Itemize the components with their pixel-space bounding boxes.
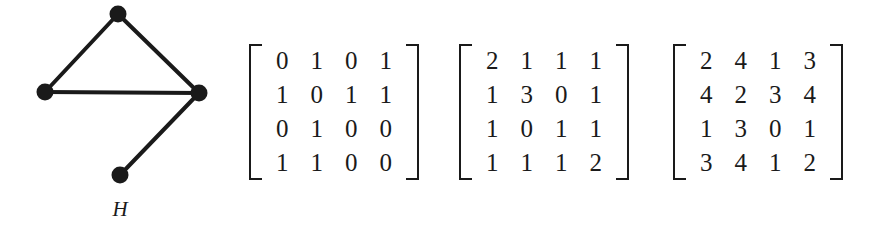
matrix-cell: 1 — [300, 146, 335, 180]
matrix-cell: 0 — [369, 112, 404, 146]
matrix-a2-label: A2 — [459, 234, 632, 235]
matrix-row: 2 1 1 1 — [475, 44, 613, 78]
matrix-cell: 1 — [544, 44, 579, 78]
matrix-cell: 1 — [334, 78, 369, 112]
matrix-cell: 1 — [300, 44, 335, 78]
matrix-cell: 4 — [724, 44, 759, 78]
matrix-a3-right-bracket — [830, 44, 843, 180]
matrix-cell: 1 — [475, 78, 510, 112]
graph-edges — [45, 14, 199, 175]
matrix-a-block: 0 1 0 1 1 0 1 1 0 1 0 0 1 1 0 0 — [249, 44, 414, 184]
matrix-cell: 2 — [579, 146, 614, 180]
graph-caption-label: H — [0, 196, 240, 222]
matrix-cell: 0 — [510, 112, 545, 146]
graph-panel: H — [0, 0, 240, 235]
graph-diagram — [0, 0, 240, 196]
matrix-cell: 0 — [265, 44, 300, 78]
matrix-cell: 2 — [793, 146, 828, 180]
matrix-cell: 1 — [510, 44, 545, 78]
graph-node-left — [37, 84, 54, 101]
matrix-cell: 1 — [369, 44, 404, 78]
matrix-cell: 1 — [793, 112, 828, 146]
matrix-a-left-bracket — [249, 44, 262, 180]
matrix-cell: 4 — [793, 78, 828, 112]
matrix-a2-table: 2 1 1 1 1 3 0 1 1 0 1 1 1 1 1 2 — [475, 44, 613, 180]
matrix-cell: 0 — [265, 112, 300, 146]
matrix-a3-block: 2 4 1 3 4 2 3 4 1 3 0 1 3 4 1 2 — [673, 44, 839, 184]
matrix-row: 0 1 0 1 — [265, 44, 403, 78]
matrix-cell: 1 — [544, 146, 579, 180]
matrix-cell: 1 — [475, 146, 510, 180]
matrix-cell: 0 — [758, 112, 793, 146]
matrix-cell: 0 — [334, 112, 369, 146]
matrix-cell: 3 — [689, 146, 724, 180]
matrix-a2-exponent: 2 — [550, 234, 557, 235]
matrix-cell: 1 — [579, 78, 614, 112]
matrix-a3-left-bracket — [673, 44, 686, 180]
matrix-cell: 1 — [265, 146, 300, 180]
matrix-row: 3 4 1 2 — [689, 146, 827, 180]
matrix-cell: 2 — [724, 78, 759, 112]
matrix-cell: 2 — [689, 44, 724, 78]
matrix-row: 1 3 0 1 — [475, 78, 613, 112]
graph-node-top — [110, 6, 127, 23]
matrix-cell: 0 — [334, 146, 369, 180]
matrix-cell: 3 — [758, 78, 793, 112]
edge-right-bottom — [120, 93, 199, 175]
matrix-cell: 3 — [793, 44, 828, 78]
matrix-cell: 1 — [300, 112, 335, 146]
matrix-a-table: 0 1 0 1 1 0 1 1 0 1 0 0 1 1 0 0 — [265, 44, 403, 180]
matrix-row: 2 4 1 3 — [689, 44, 827, 78]
graph-node-bottom — [112, 167, 129, 184]
matrix-cell: 3 — [724, 112, 759, 146]
graph-node-right — [191, 85, 208, 102]
matrix-a2-right-bracket — [616, 44, 629, 180]
matrix-a3-wrapper: 2 4 1 3 4 2 3 4 1 3 0 1 3 4 1 2 — [673, 44, 843, 180]
matrix-cell: 1 — [579, 112, 614, 146]
matrix-cell: 0 — [369, 146, 404, 180]
matrix-cell: 0 — [544, 78, 579, 112]
matrix-row: 1 0 1 1 — [475, 112, 613, 146]
matrix-cell: 1 — [265, 78, 300, 112]
matrix-cell: 1 — [758, 146, 793, 180]
edge-top-right — [118, 14, 199, 93]
matrix-cell: 1 — [510, 146, 545, 180]
matrix-a3-exponent: 3 — [760, 234, 767, 235]
matrix-a3-label: A3 — [673, 234, 839, 235]
edge-left-right — [45, 92, 199, 93]
matrix-cell: 2 — [475, 44, 510, 78]
matrix-row: 1 0 1 1 — [265, 78, 403, 112]
matrix-a-label: A — [249, 234, 414, 235]
matrix-cell: 4 — [724, 146, 759, 180]
matrix-row: 4 2 3 4 — [689, 78, 827, 112]
matrix-cell: 0 — [300, 78, 335, 112]
matrix-a3-table: 2 4 1 3 4 2 3 4 1 3 0 1 3 4 1 2 — [689, 44, 827, 180]
edge-top-left — [45, 14, 118, 92]
matrix-cell: 1 — [579, 44, 614, 78]
matrix-row: 0 1 0 0 — [265, 112, 403, 146]
matrix-cell: 4 — [689, 78, 724, 112]
matrix-cell: 0 — [334, 44, 369, 78]
matrix-row: 1 3 0 1 — [689, 112, 827, 146]
matrix-cell: 1 — [689, 112, 724, 146]
matrix-a2-wrapper: 2 1 1 1 1 3 0 1 1 0 1 1 1 1 1 2 — [459, 44, 629, 180]
matrix-a2-block: 2 1 1 1 1 3 0 1 1 0 1 1 1 1 1 2 — [459, 44, 632, 184]
matrix-cell: 1 — [544, 112, 579, 146]
matrix-a-wrapper: 0 1 0 1 1 0 1 1 0 1 0 0 1 1 0 0 — [249, 44, 419, 180]
matrix-cell: 1 — [475, 112, 510, 146]
matrix-cell: 3 — [510, 78, 545, 112]
matrix-cell: 1 — [369, 78, 404, 112]
matrix-row: 1 1 1 2 — [475, 146, 613, 180]
matrix-a2-left-bracket — [459, 44, 472, 180]
matrix-cell: 1 — [758, 44, 793, 78]
matrix-row: 1 1 0 0 — [265, 146, 403, 180]
matrix-a-right-bracket — [406, 44, 419, 180]
